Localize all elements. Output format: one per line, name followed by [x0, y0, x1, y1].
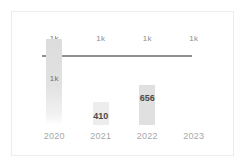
chart-card: 1k 1k 1k 1k 1k 410 656	[11, 11, 234, 156]
bar-2022[interactable]	[139, 85, 155, 125]
bar-value-2022: 656	[140, 93, 155, 104]
x-axis-label-2021: 2021	[78, 129, 125, 143]
chart-plot-area: 1k 1k 1k 1k 1k 410 656	[12, 12, 233, 155]
bar-column-2020: 1k	[31, 26, 78, 125]
bar-column-2021: 410	[78, 26, 125, 125]
x-axis-label-2020: 2020	[31, 129, 78, 143]
x-axis-label-2023: 2023	[171, 129, 218, 143]
bar-column-2023	[171, 26, 218, 125]
bar-value-2021: 410	[93, 111, 108, 122]
x-axis-labels: 2020 2021 2022 2023	[31, 129, 217, 143]
x-axis-label-2022: 2022	[124, 129, 171, 143]
bar-column-2022: 656	[124, 26, 171, 125]
bar-value-2020: 1k	[50, 74, 59, 84]
bar-series: 1k 410 656	[31, 26, 217, 125]
